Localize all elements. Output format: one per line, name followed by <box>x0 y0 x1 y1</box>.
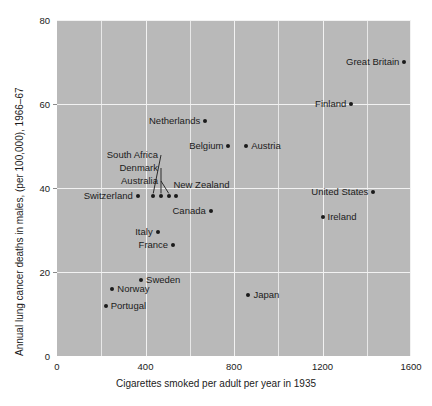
point-label: Ireland <box>328 212 357 222</box>
gridline-horizontal-major <box>57 20 411 21</box>
y-tick-label: 0 <box>30 351 50 362</box>
point-label: Switzerland <box>84 191 133 201</box>
data-point <box>246 293 250 297</box>
point-label: Sweden <box>146 275 180 285</box>
gridline-horizontal-major <box>57 272 411 273</box>
data-point <box>159 194 163 198</box>
scatter-plot-figure: Great BritainFinlandNetherlandsBelgiumAu… <box>0 0 432 406</box>
point-label: Portugal <box>111 301 146 311</box>
point-label: Norway <box>117 284 149 294</box>
data-point <box>104 304 108 308</box>
data-point <box>151 194 155 198</box>
point-label: Canada <box>172 206 205 216</box>
point-label-leader: Denmark <box>119 163 158 173</box>
point-label: Belgium <box>189 141 223 151</box>
y-tick-label: 60 <box>30 99 50 110</box>
data-point <box>226 144 230 148</box>
y-tick-mark <box>53 104 57 105</box>
data-point <box>136 194 140 198</box>
point-label: Great Britain <box>346 57 399 67</box>
x-tick-label: 1600 <box>400 361 421 372</box>
data-point <box>321 215 325 219</box>
data-point <box>174 194 178 198</box>
x-tick-label: 800 <box>226 361 242 372</box>
x-tick-label: 1200 <box>312 361 333 372</box>
data-point <box>139 278 143 282</box>
point-label-leader: Australia <box>121 176 158 186</box>
point-label: Austria <box>251 141 281 151</box>
y-tick-mark <box>53 188 57 189</box>
data-point <box>209 209 213 213</box>
point-label: New Zealand <box>173 180 229 190</box>
point-label: Finland <box>315 99 346 109</box>
point-label: Netherlands <box>149 116 200 126</box>
y-tick-label: 80 <box>30 15 50 26</box>
y-tick-label: 20 <box>30 267 50 278</box>
x-tick-label: 0 <box>54 361 59 372</box>
data-point <box>349 102 353 106</box>
point-label: Italy <box>135 227 152 237</box>
y-tick-mark <box>53 272 57 273</box>
data-point <box>167 194 171 198</box>
y-tick-label: 40 <box>30 183 50 194</box>
data-point <box>203 119 207 123</box>
data-point <box>371 190 375 194</box>
y-axis-label: Annual lung cancer deaths in males, (per… <box>14 87 25 356</box>
point-label: France <box>139 240 169 250</box>
point-label: Japan <box>253 290 279 300</box>
point-label: United States <box>311 187 368 197</box>
gridline-horizontal-major <box>57 104 411 105</box>
data-point <box>402 60 406 64</box>
data-point <box>110 287 114 291</box>
data-point <box>171 243 175 247</box>
data-point <box>156 230 160 234</box>
x-tick-label: 400 <box>138 361 154 372</box>
data-point <box>244 144 248 148</box>
point-label-leader: South Africa <box>107 150 158 160</box>
plot-area: Great BritainFinlandNetherlandsBelgiumAu… <box>57 20 411 356</box>
x-axis-label: Cigarettes smoked per adult per year in … <box>0 378 432 389</box>
